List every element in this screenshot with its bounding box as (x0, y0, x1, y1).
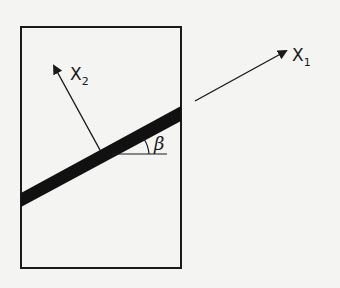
angle-arc (144, 139, 149, 154)
inclined-band (21, 106, 181, 207)
x1-axis-arrow (195, 51, 286, 101)
angle-beta-label: β (153, 133, 164, 154)
x1-axis-label: X1 (292, 45, 311, 69)
diagram-canvas: X2 X1 β (0, 0, 340, 288)
x2-axis-label: X2 (70, 64, 89, 88)
